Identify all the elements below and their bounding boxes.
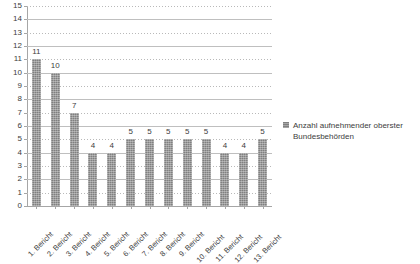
bar[interactable]: 5 bbox=[164, 139, 173, 206]
legend-swatch-icon bbox=[283, 122, 289, 128]
x-tick-mark bbox=[263, 206, 264, 209]
y-axis-tick-label: 11 bbox=[14, 55, 22, 63]
bar[interactable]: 4 bbox=[88, 153, 97, 206]
bar-slot[interactable]: 5 bbox=[253, 6, 272, 206]
y-axis-tick-label: 15 bbox=[13, 2, 22, 10]
bar[interactable]: 4 bbox=[107, 153, 116, 206]
bar-value-label: 5 bbox=[128, 128, 132, 136]
bar[interactable]: 11 bbox=[32, 59, 41, 206]
x-tick-mark bbox=[187, 206, 188, 209]
y-axis-tick-label: 7 bbox=[18, 109, 22, 117]
bar[interactable]: 5 bbox=[126, 139, 135, 206]
bar-slot[interactable]: 5 bbox=[159, 6, 178, 206]
bar-slot[interactable]: 5 bbox=[140, 6, 159, 206]
bar[interactable]: 4 bbox=[220, 153, 229, 206]
bar-slot[interactable]: 5 bbox=[178, 6, 197, 206]
bar[interactable]: 5 bbox=[145, 139, 154, 206]
x-tick-mark bbox=[168, 206, 169, 209]
bar-value-label: 4 bbox=[110, 142, 114, 150]
bar-value-label: 5 bbox=[185, 128, 189, 136]
bar-slot[interactable]: 4 bbox=[215, 6, 234, 206]
bar[interactable]: 4 bbox=[239, 153, 248, 206]
x-tick-mark bbox=[225, 206, 226, 209]
plot-area: 0123456789101112131415 111074455555445 bbox=[27, 6, 272, 207]
bar-value-label: 7 bbox=[72, 102, 76, 110]
bar[interactable]: 10 bbox=[51, 73, 60, 206]
bars-layer: 111074455555445 bbox=[27, 6, 272, 207]
y-axis-tick-label: 4 bbox=[18, 149, 22, 157]
bar-slot[interactable]: 5 bbox=[197, 6, 216, 206]
y-axis-tick-label: 5 bbox=[18, 135, 22, 143]
bar-slot[interactable]: 4 bbox=[234, 6, 253, 206]
legend-entry-label: Anzahl aufnehmender oberster Bundesbehör… bbox=[293, 120, 415, 142]
x-tick-mark bbox=[150, 206, 151, 209]
y-axis-tick-label: 10 bbox=[13, 69, 22, 77]
y-axis-tick-label: 14 bbox=[13, 15, 22, 23]
bar-value-label: 5 bbox=[204, 128, 208, 136]
x-tick-mark bbox=[93, 206, 94, 209]
x-tick-mark bbox=[112, 206, 113, 209]
y-axis-tick-label: 1 bbox=[18, 189, 22, 197]
y-axis-tick-label: 6 bbox=[18, 122, 22, 130]
bar-value-label: 11 bbox=[32, 48, 40, 56]
x-tick-mark bbox=[131, 206, 132, 209]
bar[interactable]: 5 bbox=[258, 139, 267, 206]
bar-value-label: 5 bbox=[260, 128, 264, 136]
y-axis-tick-label: 13 bbox=[13, 29, 22, 37]
bar-value-label: 5 bbox=[166, 128, 170, 136]
x-tick-mark bbox=[74, 206, 75, 209]
y-axis-tick-label: 2 bbox=[18, 175, 22, 183]
x-tick-mark bbox=[36, 206, 37, 209]
x-axis-labels: 1. Bericht2. Bericht3. Bericht4. Bericht… bbox=[27, 208, 272, 262]
bar[interactable]: 5 bbox=[202, 139, 211, 206]
bar-value-label: 4 bbox=[241, 142, 245, 150]
y-axis-tick-label: 12 bbox=[13, 42, 22, 50]
bar-value-label: 5 bbox=[147, 128, 151, 136]
y-axis-tick-label: 0 bbox=[18, 202, 22, 210]
bar-slot[interactable]: 10 bbox=[46, 6, 65, 206]
bar[interactable]: 5 bbox=[183, 139, 192, 206]
bar-value-label: 4 bbox=[91, 142, 95, 150]
chart-legend: Anzahl aufnehmender oberster Bundesbehör… bbox=[283, 120, 415, 142]
bar-slot[interactable]: 5 bbox=[121, 6, 140, 206]
y-axis-tick-label: 3 bbox=[18, 162, 22, 170]
x-tick-mark bbox=[244, 206, 245, 209]
bar-slot[interactable]: 7 bbox=[65, 6, 84, 206]
bar-slot[interactable]: 11 bbox=[27, 6, 46, 206]
x-tick-mark bbox=[55, 206, 56, 209]
bar-value-label: 4 bbox=[223, 142, 227, 150]
x-tick-mark bbox=[206, 206, 207, 209]
bar-slot[interactable]: 4 bbox=[102, 6, 121, 206]
bar[interactable]: 7 bbox=[70, 113, 79, 206]
bar-slot[interactable]: 4 bbox=[84, 6, 103, 206]
y-axis-tick-label: 8 bbox=[18, 95, 22, 103]
y-axis-tick-label: 9 bbox=[18, 82, 22, 90]
bar-value-label: 10 bbox=[51, 62, 60, 70]
